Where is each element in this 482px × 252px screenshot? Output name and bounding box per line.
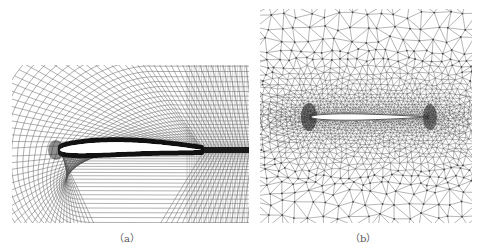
- grid-line-radial: [205, 65, 240, 151]
- mesh-node: [387, 58, 389, 60]
- mesh-node: [280, 162, 282, 164]
- mesh-node: [368, 50, 370, 52]
- mesh-node: [279, 59, 281, 61]
- mesh-node: [451, 64, 453, 66]
- mesh-node: [409, 218, 411, 220]
- mesh-node: [315, 181, 317, 183]
- mesh-node: [369, 190, 371, 192]
- mesh-node: [284, 167, 286, 169]
- mesh-node: [312, 59, 314, 61]
- mesh-node: [339, 58, 341, 60]
- mesh-node: [280, 50, 282, 52]
- mesh-node: [281, 214, 283, 216]
- mesh-node: [307, 41, 309, 43]
- mesh-node: [439, 26, 441, 28]
- mesh-node: [274, 158, 276, 160]
- grid-line-radial: [12, 153, 102, 202]
- mesh-node: [281, 193, 283, 195]
- mesh-node: [347, 58, 349, 60]
- mesh-node: [348, 178, 350, 180]
- mesh-node: [311, 13, 313, 15]
- mesh-node: [422, 60, 424, 62]
- mesh-node: [368, 27, 370, 29]
- mesh-node: [361, 189, 363, 191]
- mesh-node: [338, 205, 340, 207]
- mesh-node: [281, 41, 283, 43]
- mesh-node: [321, 185, 323, 187]
- mesh-node: [458, 185, 460, 187]
- mesh-node: [418, 175, 420, 177]
- caption-a: （a）: [114, 230, 140, 245]
- mesh-node: [288, 59, 290, 61]
- mesh-node: [382, 176, 384, 178]
- mesh-node: [352, 11, 354, 13]
- mesh-node: [324, 202, 326, 204]
- mesh-node: [356, 58, 358, 60]
- mesh-node: [305, 181, 307, 183]
- mesh-node: [322, 191, 324, 193]
- mesh-comparison-figure: （a） （b）: [0, 0, 482, 252]
- mesh-node: [431, 52, 433, 54]
- mesh-node: [464, 53, 466, 55]
- mesh-node: [460, 36, 462, 38]
- mesh-node: [461, 66, 463, 68]
- mesh-node: [283, 67, 285, 69]
- mesh-node: [365, 42, 367, 44]
- mesh-node: [360, 177, 362, 179]
- mesh-node: [429, 170, 431, 172]
- mesh-node: [330, 176, 332, 178]
- mesh-node: [395, 190, 397, 192]
- mesh-node: [426, 50, 428, 52]
- mesh-node: [368, 215, 370, 217]
- mesh-node: [266, 178, 268, 180]
- mesh-node: [267, 67, 269, 69]
- mesh-node: [446, 42, 448, 44]
- mesh-node: [420, 29, 422, 31]
- mesh-node: [408, 57, 410, 59]
- mesh-node: [460, 167, 462, 169]
- mesh-node: [374, 174, 376, 176]
- mesh-node: [451, 49, 453, 51]
- mesh-node: [450, 167, 452, 169]
- mesh-node: [438, 217, 440, 219]
- mesh-node: [376, 27, 378, 29]
- mesh-node: [342, 183, 344, 185]
- mesh-node: [409, 203, 411, 205]
- grid-line-radial: [47, 65, 189, 148]
- mesh-node: [281, 181, 283, 183]
- mesh-node: [309, 27, 311, 29]
- mesh-node: [366, 14, 368, 16]
- mesh-node: [266, 59, 268, 61]
- mesh-node: [322, 216, 324, 218]
- mesh-node: [352, 201, 354, 203]
- mesh-node: [373, 58, 375, 60]
- mesh-node: [450, 58, 452, 60]
- mesh-node: [469, 80, 471, 82]
- grid-line-radial: [24, 65, 178, 147]
- mesh-node: [324, 25, 326, 27]
- mesh-node: [314, 51, 316, 53]
- mesh-node: [462, 165, 464, 167]
- mesh-node: [449, 204, 451, 206]
- mesh-node: [321, 52, 323, 54]
- mesh-node: [406, 50, 408, 52]
- mesh-node: [463, 191, 465, 193]
- mesh-node: [447, 27, 449, 29]
- mesh-node: [294, 171, 296, 173]
- mesh-node: [273, 67, 275, 69]
- mesh-node: [297, 178, 299, 180]
- mesh-node: [426, 190, 428, 192]
- mesh-node: [383, 58, 385, 60]
- mesh-node: [264, 168, 266, 170]
- mesh-node: [322, 38, 324, 40]
- mesh-node: [449, 188, 451, 190]
- grid-line-radial: [29, 65, 181, 147]
- mesh-node: [436, 185, 438, 187]
- mesh-node: [308, 177, 310, 179]
- mesh-node: [470, 66, 472, 68]
- mesh-node: [308, 190, 310, 192]
- mesh-node: [267, 29, 269, 31]
- mesh-node: [379, 213, 381, 215]
- mesh-node: [369, 182, 371, 184]
- grid-line-radial: [234, 65, 250, 151]
